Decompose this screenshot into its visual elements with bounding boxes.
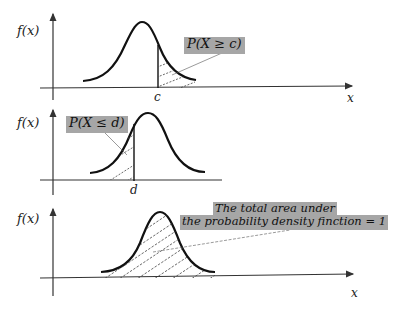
y-axis-label: f(x) <box>17 115 39 130</box>
annotation-total-area-line2: the probability density finction = 1 <box>180 215 388 230</box>
annotation-leader <box>104 132 127 155</box>
x-axis <box>40 86 352 88</box>
y-axis-label: f(x) <box>17 211 39 226</box>
x-axis-label: x <box>347 91 354 105</box>
x-axis <box>40 274 353 278</box>
annotation-lower-tail: P(X ≤ d) <box>66 116 128 133</box>
y-axis-label: f(x) <box>17 23 39 38</box>
annotation-leader <box>153 230 290 252</box>
x-axis-label: x <box>351 286 358 300</box>
c-label: c <box>154 90 161 104</box>
panel-upper-tail <box>40 14 352 104</box>
annotation-leader <box>172 53 222 75</box>
d-label: d <box>130 183 138 197</box>
annotation-upper-tail: P(X ≥ c) <box>184 37 245 54</box>
